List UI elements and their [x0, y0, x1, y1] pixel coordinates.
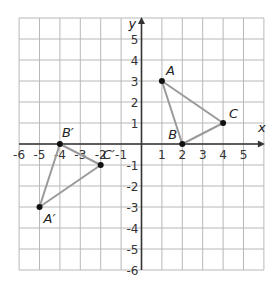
x-tick-label: 2 — [178, 148, 186, 162]
x-tick-label: -6 — [13, 148, 25, 162]
y-tick-label: -2 — [127, 180, 139, 194]
y-tick-label: 3 — [131, 75, 139, 89]
x-tick-label: -1 — [115, 148, 127, 162]
point-b-prime — [57, 141, 63, 147]
y-tick-label: 1 — [131, 117, 139, 131]
y-tick-label: 2 — [131, 96, 139, 110]
point-label: A′ — [43, 211, 56, 226]
point-label: A — [165, 63, 175, 78]
y-tick-label: -4 — [127, 222, 139, 236]
y-tick-label: -6 — [127, 264, 139, 278]
x-tick-label: 4 — [219, 148, 227, 162]
y-tick-label: -3 — [127, 201, 139, 215]
x-axis-label: x — [257, 120, 266, 135]
y-tick-label: 4 — [131, 54, 139, 68]
y-tick-label: -5 — [127, 243, 139, 257]
x-tick-label: 1 — [158, 148, 166, 162]
y-tick-label: 5 — [131, 33, 139, 47]
coordinate-plane: xy -6-5-4-3-2-11234554321-1-2-3-4-5-6 AB… — [0, 0, 280, 291]
axes: xy — [19, 16, 266, 270]
x-tick-label: 3 — [199, 148, 207, 162]
tick-labels: -6-5-4-3-2-11234554321-1-2-3-4-5-6 — [13, 33, 247, 278]
point-c — [220, 120, 226, 126]
point-label: B′ — [62, 125, 74, 140]
triangle-aprimebprimecprime — [40, 144, 101, 207]
point-c-prime — [98, 162, 104, 168]
point-b — [179, 141, 185, 147]
x-tick-label: 5 — [240, 148, 248, 162]
point-a-prime — [37, 204, 43, 210]
point-label: C — [229, 106, 239, 121]
point-label: B — [168, 127, 177, 142]
point-label: C′ — [103, 147, 115, 162]
y-axis-label: y — [128, 16, 137, 31]
point-a — [159, 78, 165, 84]
x-tick-label: -5 — [34, 148, 46, 162]
y-tick-label: -1 — [127, 159, 139, 173]
